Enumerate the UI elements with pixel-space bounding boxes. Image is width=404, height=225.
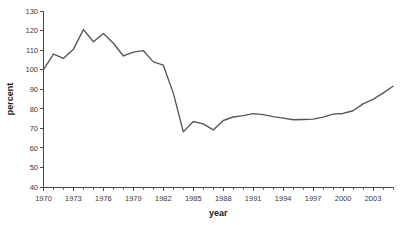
y-tick-label: 110 (26, 46, 38, 55)
y-tick-label: 50 (30, 163, 38, 172)
x-tick-label: 1976 (95, 194, 112, 203)
y-tick-label: 130 (25, 7, 38, 16)
y-tick-label: 80 (30, 105, 38, 114)
x-tick-label: 1991 (245, 194, 262, 203)
x-tick-label: 1988 (215, 194, 232, 203)
x-tick-label: 1970 (35, 194, 52, 203)
x-tick-label: 1973 (65, 194, 82, 203)
x-tick-label: 1982 (155, 194, 172, 203)
chart-background (0, 0, 404, 225)
y-tick-label: 120 (25, 26, 38, 35)
y-axis-title: percent (5, 83, 15, 116)
y-tick-label: 70 (30, 124, 38, 133)
y-tick-label: 100 (25, 65, 38, 74)
x-tick-label: 2000 (335, 194, 352, 203)
x-tick-label: 2003 (365, 194, 382, 203)
y-tick-label: 40 (30, 183, 38, 192)
y-tick-label: 60 (30, 144, 38, 153)
x-tick-label: 1997 (305, 194, 322, 203)
x-tick-label: 1994 (275, 194, 292, 203)
chart-container: 405060708090100110120130 197019731976197… (0, 0, 404, 225)
x-tick-label: 1985 (185, 194, 202, 203)
y-tick-label: 90 (30, 85, 38, 94)
x-tick-label: 1979 (125, 194, 142, 203)
x-axis-title: year (209, 208, 228, 218)
line-chart: 405060708090100110120130 197019731976197… (0, 0, 404, 225)
